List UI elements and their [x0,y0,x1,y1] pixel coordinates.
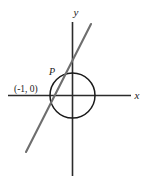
tangent-point-label: P [48,66,55,77]
intercept-point-label: (-1, 0) [14,84,38,95]
figure-canvas: y x P (-1, 0) [0,0,150,188]
y-axis-label: y [73,6,79,18]
geometry-figure: y x P (-1, 0) [0,0,150,188]
x-axis-label: x [134,89,140,101]
